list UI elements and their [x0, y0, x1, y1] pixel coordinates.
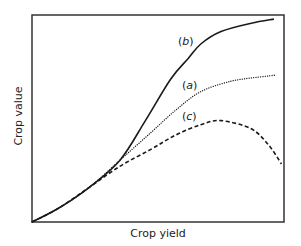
curve-label-c: (c) [182, 110, 197, 123]
curve-label-b: (b) [178, 35, 194, 48]
plot-frame [32, 15, 284, 222]
curve-label-a: (a) [182, 79, 197, 92]
curve-b [32, 19, 274, 222]
curve-a [32, 75, 276, 222]
x-axis-label: Crop yield [130, 227, 186, 240]
curve-c [32, 120, 282, 222]
curves [32, 19, 282, 222]
y-axis-label: Crop value [12, 86, 25, 145]
chart: (b) (a) (c) Crop yield Crop value [0, 0, 301, 246]
